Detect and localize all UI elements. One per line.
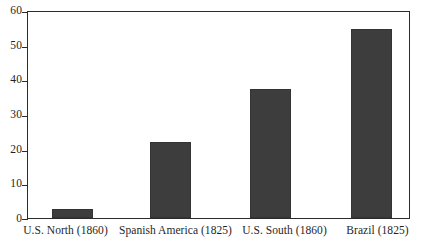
bar-brazil-1825 (351, 29, 392, 218)
y-axis-tick-label: 50 (2, 40, 22, 52)
plot-area (27, 11, 410, 219)
y-axis-tick (22, 12, 28, 13)
y-axis-tick-label: 10 (2, 178, 22, 190)
x-axis-category-label: U.S. North (1860) (8, 224, 123, 236)
y-axis-tick-label: 20 (2, 144, 22, 156)
y-axis-tick (22, 185, 28, 186)
bar-chart-figure: 60 50 40 30 20 10 0 U.S. North (1860) Sp… (0, 0, 429, 243)
x-axis-category-label: U.S. South (1860) (227, 224, 342, 236)
x-axis-category-label: Spanish America (1825) (108, 224, 243, 236)
bar-us-north-1860 (52, 209, 93, 218)
y-axis-tick (22, 219, 28, 220)
y-axis-tick-label: 60 (2, 5, 22, 17)
bar-spanish-america-1825 (150, 142, 191, 218)
bar-us-south-1860 (250, 89, 291, 218)
y-axis-tick (22, 116, 28, 117)
y-axis-tick (22, 47, 28, 48)
y-axis-tick-label: 30 (2, 109, 22, 121)
y-axis-tick (22, 151, 28, 152)
y-axis-tick (22, 81, 28, 82)
x-axis-category-label: Brazil (1825) (330, 224, 425, 236)
y-axis-tick-label: 40 (2, 74, 22, 86)
y-axis-tick-label: 0 (2, 213, 22, 225)
